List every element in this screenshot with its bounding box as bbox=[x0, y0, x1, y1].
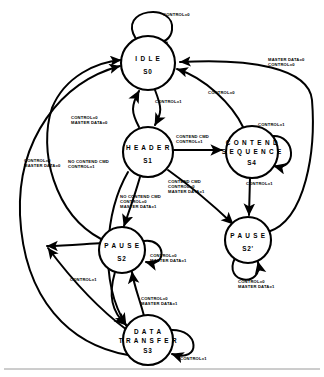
state-label-data-id: S3 bbox=[143, 347, 152, 354]
state-label-header-id: S1 bbox=[143, 157, 152, 164]
transition-label-s2prime-self: CONTROL=0 MASTER DATA=1 bbox=[238, 279, 275, 289]
edge-data-transfer-to-s2 bbox=[132, 272, 144, 316]
state-label-pause-prime-name: P A U S E bbox=[230, 232, 266, 239]
edge-header-to-idle bbox=[133, 91, 139, 127]
edge-idle-to-header bbox=[155, 90, 160, 125]
state-label-pause-prime-id: S2' bbox=[242, 245, 254, 252]
transition-label-contend-self: CONTROL=1 bbox=[258, 122, 285, 127]
state-node-contend-sequence[interactable]: C O N T E N D S E Q U E N C E S4 bbox=[222, 126, 282, 178]
state-label-pause-id: S2 bbox=[117, 255, 126, 262]
edge-s2-left-exit bbox=[47, 243, 103, 246]
state-label-pause-name: P A U S E bbox=[104, 242, 140, 249]
transition-label-idle-self: CONTROL=0 bbox=[163, 12, 190, 17]
transition-label-s2prime-to-idle: MASTER DATA=0 CONTROL=0 bbox=[268, 57, 305, 67]
state-node-header[interactable]: H E A D E R S1 bbox=[123, 127, 173, 177]
transition-label-no-contend-c1: NO CONTEND CMD CONTROL=1 bbox=[68, 159, 109, 169]
transition-label-s2-self: CONTROL=0 MASTER DATA=1 bbox=[150, 253, 187, 263]
edge-s2-to-idle bbox=[47, 60, 121, 239]
state-node-idle[interactable]: I D L E S0 bbox=[121, 36, 175, 90]
state-label-data-name2: T R A N S F E R bbox=[119, 337, 178, 344]
transition-label-idle-to-header: CONTROL=1 bbox=[155, 99, 182, 104]
state-label-idle-name: I D L E bbox=[135, 55, 160, 62]
transition-label-left-return: CONTROL=0 MASTER DATA=0 bbox=[24, 158, 61, 168]
state-label-data-name1: D A T A bbox=[134, 328, 162, 335]
state-label-idle-id: S0 bbox=[143, 68, 152, 75]
transition-label-s3-to-s2: CONTROL=0 MASTER DATA=1 bbox=[141, 296, 178, 306]
edge-s4-to-idle bbox=[177, 69, 243, 127]
state-node-pause-s2-prime[interactable]: P A U S E S2' bbox=[225, 217, 271, 263]
transition-label-contend-md1: CONTEND CMD CONTROL=0 MASTER DATA=1 bbox=[168, 179, 205, 194]
transition-label-header-to-idle: CONTROL=0 MASTER DATA=0 bbox=[71, 115, 108, 125]
state-label-contend-name1: C O N T E N D bbox=[226, 139, 279, 146]
state-node-data-transfer[interactable]: D A T A T R A N S F E R S3 bbox=[119, 315, 178, 365]
transition-label-no-contend-c0: NO CONTEND CMD CONTROL=0 MASTER DATA=1 bbox=[120, 194, 161, 209]
transition-label-s4-to-idle: CONTROL=0 bbox=[208, 90, 235, 95]
state-label-contend-name2: S E Q U E N C E bbox=[222, 148, 282, 156]
transition-label-s2-to-s3: CONTROL=1 bbox=[70, 277, 97, 282]
diagram-canvas: I D L E S0 H E A D E R S1 C O N T E N D … bbox=[0, 0, 324, 377]
state-label-header-name: H E A D E R bbox=[126, 144, 170, 151]
edge-s3-to-idle bbox=[20, 66, 128, 355]
transition-label-header-to-contend: CONTEND CMD CONTROL=1 bbox=[176, 134, 209, 144]
transition-label-s3-self: CONTROL=1 bbox=[180, 356, 207, 361]
transition-label-contend-to-s2p: CONTROL=1 bbox=[246, 181, 273, 186]
state-label-contend-id: S4 bbox=[247, 159, 256, 166]
state-node-pause-s2[interactable]: P A U S E S2 bbox=[99, 227, 145, 273]
